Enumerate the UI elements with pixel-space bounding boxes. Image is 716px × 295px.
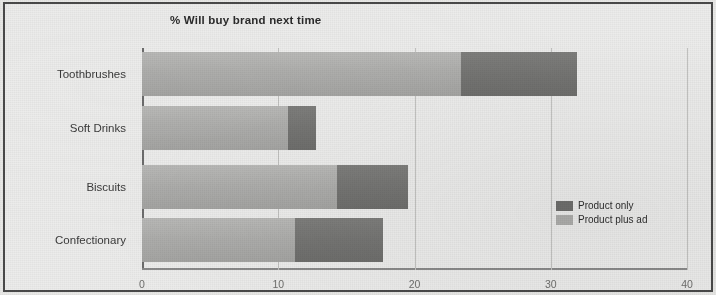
x-tick-label: 0 bbox=[139, 278, 145, 290]
category-label: Confectionary bbox=[55, 234, 126, 246]
x-tick-label: 20 bbox=[409, 278, 421, 290]
x-tick-label: 30 bbox=[545, 278, 557, 290]
legend-label: Product plus ad bbox=[578, 214, 648, 225]
category-label: Soft Drinks bbox=[70, 122, 126, 134]
bar-row bbox=[142, 218, 383, 262]
bar-segment-product-plus-ad bbox=[142, 106, 288, 150]
bar-segment-product-plus-ad bbox=[142, 52, 461, 96]
chart-image: % Will buy brand next time ToothbrushesS… bbox=[0, 0, 716, 295]
bar-segment-product-plus-ad bbox=[142, 218, 295, 262]
gridline bbox=[687, 48, 688, 270]
legend-label: Product only bbox=[578, 200, 634, 211]
category-label: Biscuits bbox=[86, 181, 126, 193]
chart-legend: Product only Product plus ad bbox=[556, 200, 648, 225]
legend-swatch-icon bbox=[556, 201, 573, 211]
bar-segment-product-only bbox=[337, 165, 408, 209]
bar-row bbox=[142, 165, 408, 209]
legend-item-product-only: Product only bbox=[556, 200, 648, 211]
x-tick-label: 40 bbox=[681, 278, 693, 290]
legend-swatch-icon bbox=[556, 215, 573, 225]
bar-segment-product-only bbox=[295, 218, 384, 262]
bar-row bbox=[142, 52, 577, 96]
category-label: Toothbrushes bbox=[57, 68, 126, 80]
bar-segment-product-only bbox=[461, 52, 577, 96]
x-tick-label: 10 bbox=[272, 278, 284, 290]
chart-title: % Will buy brand next time bbox=[170, 14, 321, 26]
bar-row bbox=[142, 106, 316, 150]
bar-segment-product-plus-ad bbox=[142, 165, 337, 209]
legend-item-product-plus-ad: Product plus ad bbox=[556, 214, 648, 225]
plot-area: ToothbrushesSoft DrinksBiscuitsConfectio… bbox=[142, 48, 687, 270]
chart-frame: % Will buy brand next time ToothbrushesS… bbox=[3, 2, 713, 292]
bar-segment-product-only bbox=[288, 106, 317, 150]
